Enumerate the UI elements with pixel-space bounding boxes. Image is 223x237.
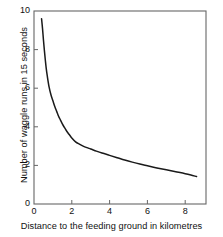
x-tick-label-0: 0 [27,206,41,216]
data-curve [42,19,197,177]
x-tick-label-6: 6 [140,206,154,216]
x-axis-ticks [72,200,185,204]
plot-frame [34,11,206,204]
x-tick-label-8: 8 [178,206,192,216]
x-axis-label: Distance to the feeding ground in kilome… [0,221,223,231]
x-tick-label-4: 4 [103,206,117,216]
y-axis-ticks [34,50,38,166]
axes-box [34,11,206,204]
x-tick-label-2: 2 [65,206,79,216]
chart-figure: 10 8 6 4 2 0 0 2 4 6 8 Number of waggle … [0,0,223,237]
y-axis-label: Number of waggle runs in 15 seconds [17,10,31,200]
waggle-run-decay-plot [0,0,223,237]
